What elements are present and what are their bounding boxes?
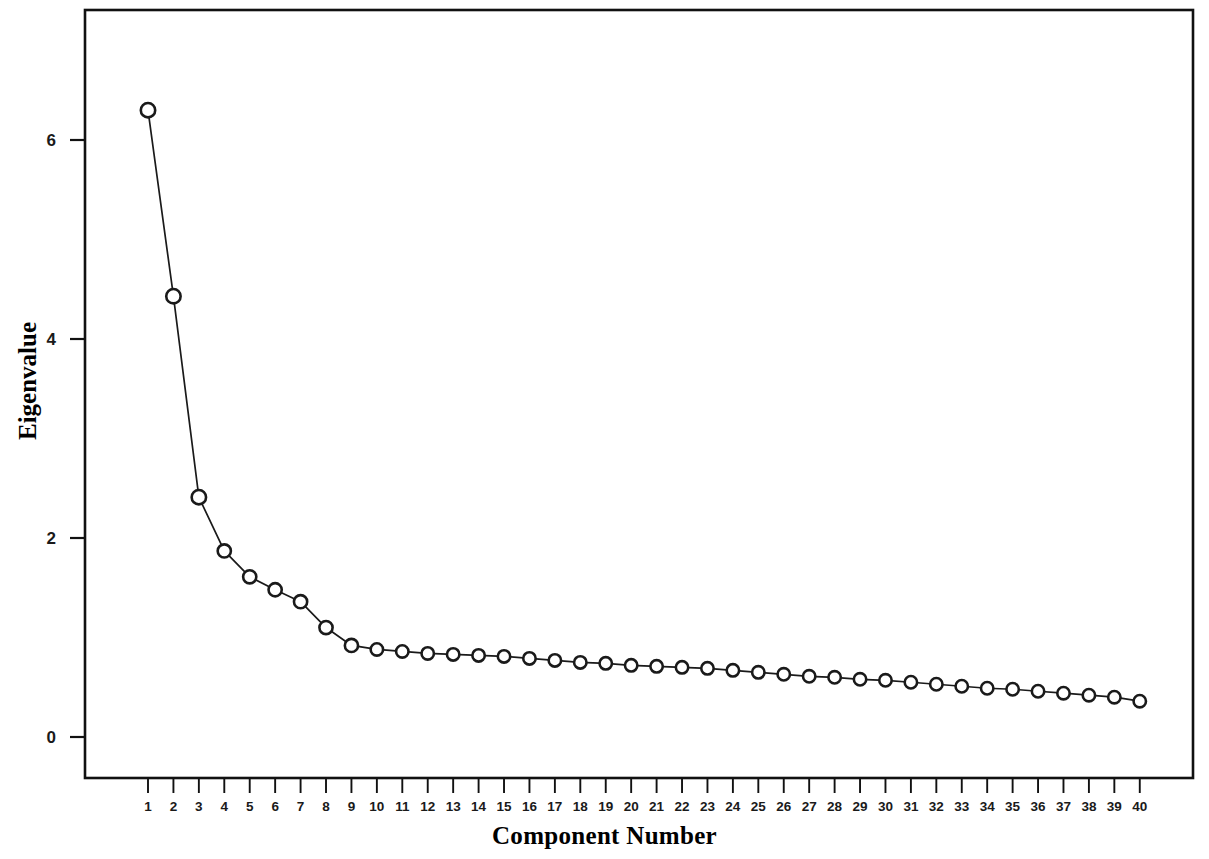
x-tick-label: 26 <box>776 799 792 814</box>
scree-plot-figure: 0246 12345678910111213141516171819202122… <box>0 0 1209 859</box>
data-point-marker <box>345 639 358 652</box>
data-point-marker <box>956 680 968 692</box>
x-tick-label: 14 <box>471 799 487 814</box>
x-tick-label: 15 <box>497 799 513 814</box>
data-point-marker <box>1057 687 1069 699</box>
x-tick-label: 19 <box>598 799 613 814</box>
data-point-marker <box>625 659 637 671</box>
data-point-marker <box>752 666 764 678</box>
data-point-marker <box>498 650 510 662</box>
x-tick-label: 2 <box>170 799 178 814</box>
x-tick-label: 39 <box>1107 799 1122 814</box>
x-tick-label: 10 <box>369 799 384 814</box>
data-point-marker <box>879 674 891 686</box>
y-axis-ticks: 0246 <box>47 131 85 747</box>
data-point-marker <box>981 682 993 694</box>
data-point-marker <box>803 670 815 682</box>
x-tick-label: 31 <box>903 799 919 814</box>
y-axis-title: Eigenvalue <box>14 322 42 440</box>
x-tick-label: 16 <box>522 799 538 814</box>
data-point-marker <box>701 662 713 674</box>
data-point-marker <box>854 673 866 685</box>
x-tick-label: 40 <box>1132 799 1147 814</box>
data-point-marker <box>574 656 586 668</box>
y-tick-label: 4 <box>47 330 57 349</box>
data-point-marker <box>523 652 535 664</box>
data-point-marker <box>828 671 840 683</box>
data-point-marker <box>600 657 612 669</box>
data-point-marker <box>396 645 408 657</box>
x-axis-ticks: 1234567891011121314151617181920212223242… <box>144 778 1147 814</box>
x-tick-label: 1 <box>144 799 152 814</box>
data-point-marker <box>166 289 180 303</box>
x-tick-label: 11 <box>395 799 410 814</box>
x-tick-label: 28 <box>827 799 843 814</box>
x-tick-label: 30 <box>878 799 893 814</box>
x-tick-label: 9 <box>348 799 356 814</box>
x-tick-label: 13 <box>446 799 462 814</box>
data-point-marker <box>371 643 383 655</box>
data-point-marker <box>905 676 917 688</box>
x-tick-label: 18 <box>573 799 589 814</box>
data-point-marker <box>192 490 206 504</box>
data-point-marker <box>778 668 790 680</box>
data-point-marker <box>930 678 942 690</box>
x-tick-label: 12 <box>420 799 435 814</box>
data-point-marker <box>1108 691 1120 703</box>
x-tick-label: 32 <box>929 799 944 814</box>
x-tick-label: 8 <box>322 799 330 814</box>
x-axis-title: Component Number <box>0 822 1209 850</box>
data-point-marker <box>1032 685 1044 697</box>
data-point-marker <box>269 583 282 596</box>
y-tick-label: 0 <box>47 728 56 747</box>
data-point-marker <box>727 664 739 676</box>
data-point-marker <box>422 647 434 659</box>
data-point-marker <box>650 660 662 672</box>
x-tick-label: 17 <box>547 799 562 814</box>
x-tick-label: 7 <box>297 799 305 814</box>
x-tick-label: 33 <box>954 799 970 814</box>
x-tick-label: 37 <box>1056 799 1071 814</box>
data-point-marker <box>243 570 256 583</box>
y-tick-label: 6 <box>47 131 56 150</box>
x-tick-label: 20 <box>624 799 639 814</box>
x-tick-label: 5 <box>246 799 254 814</box>
x-tick-label: 36 <box>1031 799 1047 814</box>
plot-frame <box>85 10 1193 778</box>
x-tick-label: 24 <box>725 799 741 814</box>
data-point-marker <box>1083 689 1095 701</box>
data-point-marker <box>447 648 459 660</box>
x-tick-label: 35 <box>1005 799 1021 814</box>
data-point-marker <box>218 544 231 557</box>
x-tick-label: 3 <box>195 799 203 814</box>
x-tick-label: 4 <box>221 799 229 814</box>
x-tick-label: 38 <box>1081 799 1097 814</box>
data-point-marker <box>676 661 688 673</box>
data-point-marker <box>1134 695 1146 707</box>
x-tick-label: 25 <box>751 799 767 814</box>
data-point-marker <box>294 595 307 608</box>
data-point-marker <box>1006 683 1018 695</box>
x-tick-label: 21 <box>649 799 665 814</box>
scree-plot-svg: 0246 12345678910111213141516171819202122… <box>0 0 1209 859</box>
x-tick-label: 29 <box>853 799 868 814</box>
x-tick-label: 22 <box>675 799 690 814</box>
x-tick-label: 34 <box>980 799 996 814</box>
y-tick-label: 2 <box>47 529 56 548</box>
data-point-marker <box>319 621 332 634</box>
data-point-marker <box>549 654 561 666</box>
x-tick-label: 23 <box>700 799 716 814</box>
x-tick-label: 27 <box>802 799 817 814</box>
x-tick-label: 6 <box>271 799 279 814</box>
data-point-marker <box>472 649 484 661</box>
data-point-marker <box>141 103 155 117</box>
